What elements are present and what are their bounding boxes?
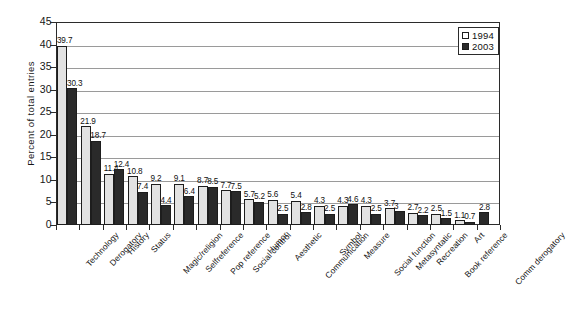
y-axis-tick-label: 5 xyxy=(0,195,52,207)
bar-value-label: 0.7 xyxy=(464,212,475,221)
bar-value-label: 5.4 xyxy=(291,191,302,200)
bar-1994 xyxy=(291,201,301,225)
y-axis-tick-label: 40 xyxy=(0,38,52,50)
bar-2003 xyxy=(184,196,194,225)
bar-series-layer: 39.730.321.918.711.412.410.87.49.24.49.1… xyxy=(56,22,500,225)
bar-1994 xyxy=(314,206,324,225)
bar-value-label: 39.7 xyxy=(57,36,73,45)
bar-1994 xyxy=(408,213,418,225)
bar-value-label: 10.8 xyxy=(127,167,143,176)
bar-1994 xyxy=(268,200,278,225)
y-axis-tick-label: 45 xyxy=(0,15,52,27)
bar-2003 xyxy=(301,212,311,225)
bar-1994 xyxy=(174,184,184,225)
bar-1994 xyxy=(198,186,208,225)
bar-value-label: 2.5 xyxy=(371,204,382,213)
y-axis-tick-label: 35 xyxy=(0,60,52,72)
bar-value-label: 5.2 xyxy=(254,192,265,201)
bar-1994 xyxy=(221,190,231,225)
x-axis-category-label: Comm derogatory xyxy=(513,230,567,287)
bar-value-label: 2.8 xyxy=(301,203,312,212)
legend-label-2003: 2003 xyxy=(472,41,494,52)
y-axis-tick-label: 20 xyxy=(0,128,52,140)
legend-entry-2003: 2003 xyxy=(462,41,494,52)
bar-value-label: 7.4 xyxy=(137,182,148,191)
bar-value-label: 4.6 xyxy=(347,195,358,204)
bar-value-label: 7.5 xyxy=(231,182,242,191)
x-axis-category-label: Aesthetic xyxy=(292,230,323,263)
x-axis-category-label: Status xyxy=(148,230,172,255)
bar-value-label: 30.3 xyxy=(67,79,83,88)
bar-value-label: 2.8 xyxy=(479,203,490,212)
bar-value-label: 4.4 xyxy=(160,196,171,205)
y-axis-tick-label: 10 xyxy=(0,173,52,185)
y-axis-tick-label: 30 xyxy=(0,83,52,95)
bar-1994 xyxy=(81,126,91,225)
bar-2003 xyxy=(161,205,171,225)
bar-value-label: 3 xyxy=(394,202,398,211)
bar-1994 xyxy=(244,199,254,225)
bar-2003 xyxy=(67,88,77,225)
x-axis-category-label: History xyxy=(126,230,152,256)
bar-1994 xyxy=(104,174,114,225)
bar-2003 xyxy=(254,202,264,225)
bar-value-label: 21.9 xyxy=(80,117,96,126)
legend-swatch-open-square-icon xyxy=(462,32,469,39)
bar-1994 xyxy=(57,46,67,225)
bar-value-label: 2.2 xyxy=(417,206,428,215)
bar-1994 xyxy=(361,206,371,225)
bar-1994 xyxy=(338,206,348,225)
x-axis-labels: TechnologyDerogatoryHistoryStatusMagic/r… xyxy=(0,228,524,312)
bar-2003 xyxy=(441,218,451,225)
bar-2003 xyxy=(371,214,381,225)
bar-value-label: 8.5 xyxy=(207,177,218,186)
bar-1994 xyxy=(385,208,395,225)
bar-value-label: 9.2 xyxy=(150,174,161,183)
bar-2003 xyxy=(91,141,101,225)
bar-2003 xyxy=(348,204,358,225)
x-axis-category-label: Art xyxy=(471,230,486,245)
bar-value-label: 6.4 xyxy=(184,187,195,196)
bar-2003 xyxy=(114,169,124,225)
bar-1994 xyxy=(151,184,161,226)
bar-value-label: 18.7 xyxy=(90,131,106,140)
bar-1994 xyxy=(431,214,441,225)
bar-2003 xyxy=(208,187,218,225)
x-axis-category-label: Book reference xyxy=(463,230,510,279)
y-axis-tick-label: 25 xyxy=(0,105,52,117)
legend-swatch-filled-square-icon xyxy=(462,43,469,50)
chart-legend: 1994 2003 xyxy=(458,27,499,55)
y-axis-tick-label: 15 xyxy=(0,150,52,162)
bar-value-label: 2.5 xyxy=(277,204,288,213)
legend-label-1994: 1994 xyxy=(472,30,494,41)
bar-2003 xyxy=(231,191,241,225)
bar-2003 xyxy=(395,211,405,225)
bar-value-label: 9.1 xyxy=(174,174,185,183)
bar-2003 xyxy=(138,192,148,225)
bar-2003 xyxy=(418,215,428,225)
bar-1994 xyxy=(128,176,138,225)
bar-value-label: 2.5 xyxy=(324,204,335,213)
bar-2003 xyxy=(479,212,489,225)
bar-2003 xyxy=(325,214,335,225)
bar-2003 xyxy=(278,214,288,225)
legend-entry-1994: 1994 xyxy=(462,30,494,41)
bar-value-label: 5.6 xyxy=(267,190,278,199)
bar-value-label: 1.5 xyxy=(441,209,452,218)
